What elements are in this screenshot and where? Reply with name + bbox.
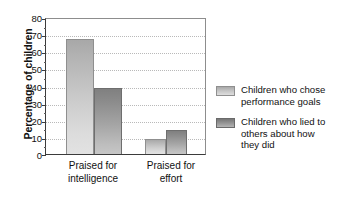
legend-item-lied: Children who lied to others about how th… [216,116,348,151]
bar-chart-figure: Percentage of children 80 70 60 50 40 30… [0,0,348,204]
y-tick-label-40: 40 [18,82,42,92]
y-tick-label-80: 80 [18,14,42,24]
y-tick-label-70: 70 [18,31,42,41]
legend-swatch-dark-icon [216,118,235,128]
ytick-mark-60 [42,53,46,54]
ytick-mark-30 [42,105,46,106]
category-label-effort-line1: Praised for [131,160,211,173]
bar-intelligence-lied [94,88,122,154]
ytick-minor-15 [44,130,47,131]
y-tick-label-30: 30 [18,99,42,109]
category-label-effort-line2: effort [131,173,211,186]
ytick-minor-55 [44,62,47,63]
ytick-minor-5 [44,147,47,148]
y-tick-label-60: 60 [18,48,42,58]
ytick-mark-0 [42,155,46,156]
y-tick-label-20: 20 [18,116,42,126]
ytick-mark-40 [42,88,46,89]
ytick-minor-35 [44,96,47,97]
ytick-minor-75 [44,28,47,29]
bar-intelligence-performance-goals [66,39,94,154]
category-label-intelligence-line1: Praised for [53,160,133,173]
legend-item-performance-goals: Children who chose performance goals [216,84,348,107]
legend-label-lied-line2: others about how [241,128,315,139]
category-label-effort: Praised for effort [131,160,211,185]
legend-label-lied-line3: they did [241,139,275,150]
gridline-70 [46,36,205,37]
chart-legend: Children who chose performance goals Chi… [216,84,348,160]
legend-label-performance-goals-line1: Children who chose [241,84,325,95]
ytick-mark-10 [42,139,46,140]
y-tick-label-10: 10 [18,133,42,143]
legend-swatch-light-icon [216,86,235,96]
category-label-intelligence-line2: intelligence [53,173,133,186]
y-tick-label-50: 50 [18,65,42,75]
plot-area [45,18,206,155]
y-axis-tick-labels: 80 70 60 50 40 30 20 10 0 [18,18,42,155]
category-label-intelligence: Praised for intelligence [53,160,133,185]
legend-label-performance-goals-line2: performance goals [241,96,320,107]
ytick-mark-20 [42,122,46,123]
y-tick-label-0: 0 [18,151,42,161]
bar-effort-lied [166,130,187,154]
bar-effort-performance-goals [145,139,166,154]
ytick-mark-70 [42,36,46,37]
ytick-minor-65 [44,45,47,46]
ytick-minor-45 [44,79,47,80]
legend-label-performance-goals: Children who chose performance goals [241,84,325,107]
ytick-mark-80 [42,19,46,20]
ytick-mark-50 [42,70,46,71]
legend-label-lied-line1: Children who lied to [241,116,325,127]
ytick-minor-25 [44,113,47,114]
legend-label-lied: Children who lied to others about how th… [241,116,325,151]
